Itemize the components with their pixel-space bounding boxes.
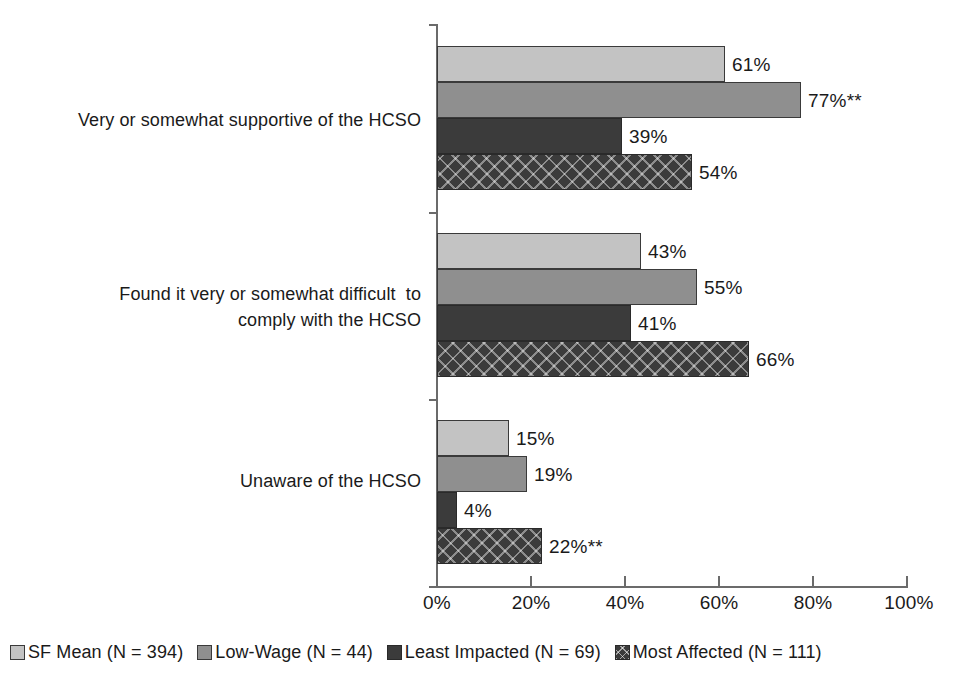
bar-least-impacted-difficult <box>437 305 631 341</box>
legend-item-sf-mean[interactable]: SF Mean (N = 394) <box>10 642 183 663</box>
legend-label: Low-Wage (N = 44) <box>215 642 373 663</box>
bar-value-label: 4% <box>464 500 492 522</box>
chart-legend: SF Mean (N = 394) Low-Wage (N = 44) Leas… <box>10 642 822 663</box>
bar-low-wage-unaware <box>437 456 527 492</box>
x-axis-tick <box>812 576 814 587</box>
y-axis-category-tick <box>429 212 438 214</box>
legend-label: SF Mean (N = 394) <box>28 642 183 663</box>
x-axis-tick-label: 100% <box>884 592 933 614</box>
bar-sf-mean-difficult <box>437 233 641 269</box>
bar-value-label: 55% <box>704 277 743 299</box>
y-axis-category-label: Very or somewhat supportive of the HCSO <box>78 107 421 133</box>
bar-value-label: 77%** <box>808 90 862 112</box>
bar-value-label: 54% <box>699 162 738 184</box>
x-axis-line <box>436 586 908 588</box>
bar-chart: 0% 20% 40% 60% 80% 100% Very or somewhat… <box>0 0 955 680</box>
legend-swatch-icon <box>615 645 630 660</box>
x-axis-tick-label: 40% <box>606 592 645 614</box>
x-axis-tick-label: 20% <box>512 592 551 614</box>
bar-value-label: 41% <box>638 313 677 335</box>
bar-value-label: 66% <box>756 349 795 371</box>
x-axis-tick-label: 0% <box>423 592 451 614</box>
legend-item-least-impacted[interactable]: Least Impacted (N = 69) <box>387 642 601 663</box>
bar-value-label: 15% <box>516 428 555 450</box>
legend-label: Most Affected (N = 111) <box>633 642 822 663</box>
y-axis-top-cap <box>429 24 438 26</box>
bar-least-impacted-unaware <box>437 492 457 528</box>
x-axis-tick <box>718 576 720 587</box>
legend-label: Least Impacted (N = 69) <box>405 642 601 663</box>
bar-value-label: 61% <box>732 54 771 76</box>
bar-most-affected-difficult <box>437 341 749 377</box>
bar-low-wage-difficult <box>437 269 697 305</box>
legend-swatch-icon <box>197 645 212 660</box>
bar-sf-mean-supportive <box>437 46 725 82</box>
legend-item-low-wage[interactable]: Low-Wage (N = 44) <box>197 642 373 663</box>
bar-sf-mean-unaware <box>437 420 509 456</box>
bar-value-label: 19% <box>534 464 573 486</box>
bar-value-label: 22%** <box>549 536 603 558</box>
x-axis-tick <box>624 576 626 587</box>
x-axis-tick-label: 60% <box>700 592 739 614</box>
legend-swatch-icon <box>10 645 25 660</box>
bar-low-wage-supportive <box>437 82 801 118</box>
x-axis-tick <box>436 576 438 587</box>
legend-item-most-affected[interactable]: Most Affected (N = 111) <box>615 642 822 663</box>
x-axis-tick-label: 80% <box>794 592 833 614</box>
bar-value-label: 39% <box>629 126 668 148</box>
y-axis-category-tick <box>429 399 438 401</box>
bar-least-impacted-supportive <box>437 118 622 154</box>
y-axis-category-label: Found it very or somewhat difficult to c… <box>119 281 421 333</box>
legend-swatch-icon <box>387 645 402 660</box>
bar-most-affected-supportive <box>437 154 692 190</box>
y-axis-category-label: Unaware of the HCSO <box>240 468 421 494</box>
bar-value-label: 43% <box>648 241 687 263</box>
x-axis-tick <box>906 576 908 587</box>
bar-most-affected-unaware <box>437 528 542 564</box>
x-axis-tick <box>530 576 532 587</box>
